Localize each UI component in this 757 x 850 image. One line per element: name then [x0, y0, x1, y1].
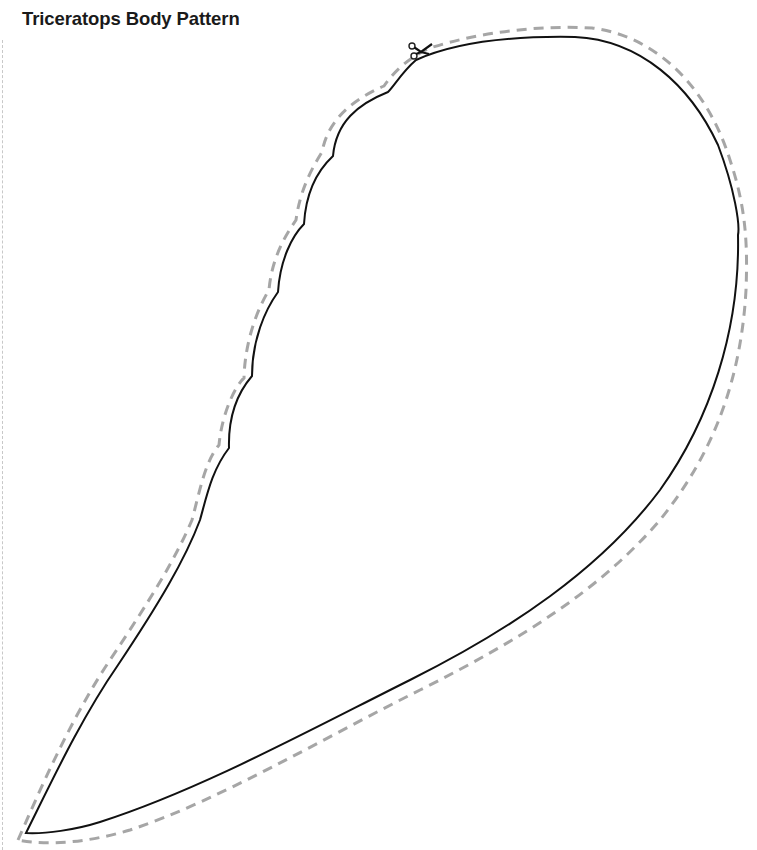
pattern-page: Triceratops Body Pattern	[0, 0, 757, 850]
scissors-icon	[407, 40, 433, 62]
body-outline	[26, 37, 738, 833]
body-pattern-shape	[0, 0, 757, 850]
